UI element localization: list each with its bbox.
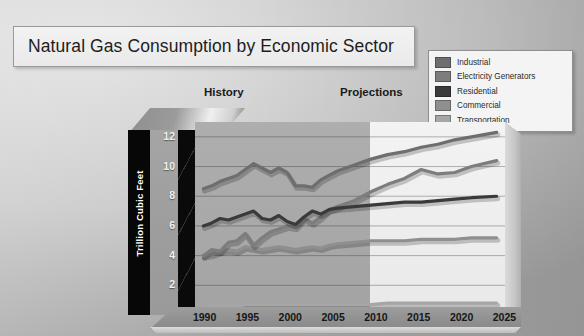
x-axis-tick-label: 1990 [193,311,216,323]
x-axis-tick-label: 1995 [236,311,259,323]
x-axis-tick-label: 2005 [321,311,344,323]
legend-label: Residential [457,87,498,96]
x-axis-tick-label: 2000 [279,311,302,323]
x-axis-tick-label: 2020 [450,311,473,323]
chart-3d: Trillion Cubic Feet 024681012 1990199520… [128,108,528,323]
chart-axis-label-panel: Trillion Cubic Feet [128,130,150,315]
slide-photo: Natural Gas Consumption by Economic Sect… [0,0,584,336]
page-title: Natural Gas Consumption by Economic Sect… [14,36,394,57]
projections-caption: Projections [340,86,403,98]
y-axis-tick-label: 4 [169,249,175,261]
y-axis-tick-label: 12 [163,130,175,142]
slide-title-box: Natural Gas Consumption by Economic Sect… [13,26,415,67]
series-line-shadow [205,135,498,191]
y-axis-tick-label: 6 [169,219,175,231]
series-lines [195,122,505,315]
legend-item-industrial: Industrial [435,55,572,70]
y-axis-tick-label: 10 [163,160,175,172]
history-caption: History [204,86,244,98]
x-axis-tick-label: 2015 [407,311,430,323]
y-axis-tick-label: 2 [169,278,175,290]
legend-swatch-icon [435,86,451,97]
chart-wall-side [178,130,195,315]
y-axis-title: Trillion Cubic Feet [134,125,145,303]
legend-swatch-icon [435,71,451,82]
x-axis-ticks: 19901995200020052010201520202025 [150,311,521,331]
legend-label: Electricity Generators [457,72,535,81]
series-line-industrial [203,132,496,188]
y-axis-tick-label: 8 [169,189,175,201]
x-axis-tick-label: 2010 [364,311,387,323]
legend-item-electricity-generators: Electricity Generators [435,70,572,85]
legend-label: Industrial [457,58,490,67]
legend-swatch-icon [435,57,451,68]
legend-item-residential: Residential [435,84,572,99]
x-axis-tick-label: 2025 [493,311,516,323]
chart-wall-right [505,122,521,315]
y-axis-ticks: 024681012 [150,130,178,315]
plot-area [195,122,505,315]
